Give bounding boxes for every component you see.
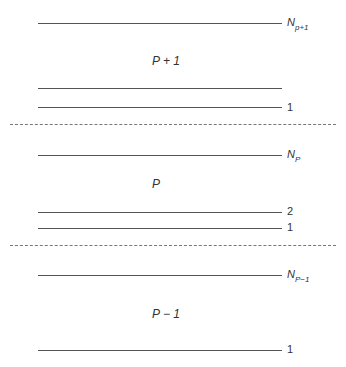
level-line-np-top <box>38 155 282 156</box>
level-line-p-1 <box>38 228 282 229</box>
level-label-p1-1: 1 <box>287 102 293 113</box>
level-line-p1-first <box>38 107 282 108</box>
group-label-p-plus-1: P + 1 <box>152 54 180 68</box>
level-line-np1-top <box>38 23 282 24</box>
level-label-p-2: 2 <box>287 206 293 217</box>
group-separator-1 <box>10 124 336 125</box>
level-label-npm1: NP−1 <box>287 269 309 284</box>
level-line-pm1-1 <box>38 350 282 351</box>
level-label-p-1: 1 <box>287 222 293 233</box>
group-separator-2 <box>10 245 336 246</box>
level-line-p-2 <box>38 212 282 213</box>
group-label-p: P <box>152 177 160 191</box>
level-line-npm1-top <box>38 275 282 276</box>
level-label-np1: Np+1 <box>287 17 309 32</box>
level-line-p1-second <box>38 88 282 89</box>
level-label-np: NP <box>287 149 300 164</box>
level-label-pm1-1: 1 <box>287 344 293 355</box>
group-label-p-minus-1: P − 1 <box>152 307 180 321</box>
